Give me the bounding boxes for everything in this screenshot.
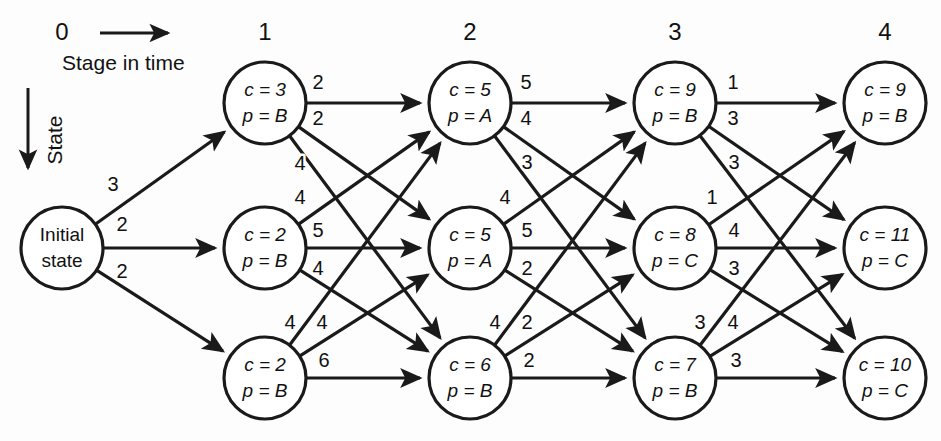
edge-s2r2-to-s3r1	[503, 132, 635, 225]
stage-label-1: 1	[258, 18, 271, 45]
node-label-line2-s3r3: p = B	[652, 380, 698, 401]
node-label-line1-s4r2: c = 11	[860, 224, 911, 245]
node-circle-s2r1	[429, 62, 511, 144]
node-s1r2[interactable]: c = 2p = B	[224, 207, 306, 289]
edge-weight-init-to-s1r1: 3	[107, 173, 118, 195]
node-label-line2-s4r3: p = C	[861, 380, 908, 401]
node-label-line1-s4r1: c = 9	[864, 79, 906, 100]
node-label-line1-s1r2: c = 2	[244, 224, 286, 245]
edge-weight-s1r2-to-s2r2: 5	[312, 219, 323, 241]
edge-weight-s3r2-to-s4r3: 3	[728, 257, 739, 279]
node-init[interactable]: Initialstate	[21, 207, 103, 289]
node-label-line1-s1r3: c = 2	[244, 354, 286, 375]
edge-weight-s1r1-to-s2r3: 4	[294, 152, 305, 174]
node-label-line2-s2r2: p = A	[447, 250, 492, 271]
trellis-diagram: Initialstatec = 3p = Bc = 2p = Bc = 2p =…	[0, 0, 941, 441]
node-label-line2-s1r1: p = B	[242, 105, 288, 126]
edge-weight-s2r3-to-s3r2: 2	[521, 311, 532, 333]
edge-weight-s3r3-to-s4r3: 3	[730, 349, 741, 371]
node-label-line1-s3r3: c = 7	[654, 354, 697, 375]
figure-canvas: Initialstatec = 3p = Bc = 2p = Bc = 2p =…	[0, 0, 941, 441]
node-label-line2-s3r1: p = B	[652, 105, 698, 126]
edge-s2r1-to-s3r3	[494, 135, 645, 338]
stage-labels-layer: 01234	[55, 18, 891, 45]
node-s1r3[interactable]: c = 2p = B	[224, 337, 306, 419]
node-circle-s2r3	[429, 337, 511, 419]
state-axis-caption: State	[43, 115, 66, 164]
edge-weight-s3r3-to-s4r2: 4	[727, 311, 738, 333]
node-circle-s1r3	[224, 337, 306, 419]
node-label-line1-s2r1: c = 5	[449, 79, 491, 100]
edge-weight-s1r2-to-s2r1: 4	[294, 186, 305, 208]
edge-weight-s2r2-to-s3r3: 2	[521, 257, 532, 279]
node-s2r1[interactable]: c = 5p = A	[429, 62, 511, 144]
node-label-line1-s3r1: c = 9	[654, 79, 696, 100]
edge-s3r1-to-s4r3	[699, 135, 854, 338]
node-circle-s4r2	[844, 207, 926, 289]
edge-weight-init-to-s1r3: 2	[116, 260, 127, 282]
edge-weight-s1r1-to-s2r2: 2	[312, 107, 323, 129]
node-circle-s1r1	[224, 62, 306, 144]
node-s4r2[interactable]: c = 11p = C	[844, 207, 926, 289]
stage-label-0: 0	[55, 18, 68, 45]
nodes-layer: Initialstatec = 3p = Bc = 2p = Bc = 2p =…	[21, 62, 926, 419]
edge-weight-s1r3-to-s2r2: 4	[316, 311, 327, 333]
edge-weight-s3r2-to-s4r1: 1	[706, 186, 717, 208]
edge-weight-s2r1-to-s3r1: 5	[520, 71, 531, 93]
edge-weight-s2r1-to-s3r2: 4	[520, 107, 531, 129]
edge-weight-s2r3-to-s3r1: 4	[489, 311, 500, 333]
edge-s1r2-to-s2r1	[298, 132, 430, 225]
node-label-line2-s3r2: p = C	[651, 250, 698, 271]
node-s3r1[interactable]: c = 9p = B	[634, 62, 716, 144]
node-label-line1-s4r3: c = 10	[859, 354, 912, 375]
edge-weight-s3r1-to-s4r2: 3	[727, 107, 738, 129]
node-label-line2-s4r1: p = B	[862, 105, 908, 126]
stage-label-4: 4	[878, 18, 891, 45]
node-label-line2-s2r3: p = B	[447, 380, 493, 401]
edge-weight-s3r2-to-s4r2: 4	[728, 219, 739, 241]
stage-label-2: 2	[463, 18, 476, 45]
edge-weight-s2r3-to-s3r3: 2	[523, 349, 534, 371]
edge-weight-s3r3-to-s4r1: 3	[694, 311, 705, 333]
node-circle-s3r3	[634, 337, 716, 419]
edge-s3r2-to-s4r1	[708, 131, 844, 225]
node-label-line1-init: Initial	[40, 224, 84, 245]
node-circle-init	[21, 207, 103, 289]
node-s2r3[interactable]: c = 6p = B	[429, 337, 511, 419]
node-label-line1-s3r2: c = 8	[654, 224, 696, 245]
node-label-line2-s1r2: p = B	[242, 250, 288, 271]
node-label-line2-s4r2: p = C	[861, 250, 908, 271]
stage-label-3: 3	[668, 18, 681, 45]
node-label-line1-s2r2: c = 5	[449, 224, 491, 245]
node-circle-s4r1	[844, 62, 926, 144]
node-s4r3[interactable]: c = 10p = C	[844, 337, 926, 419]
node-label-line1-s2r3: c = 6	[449, 354, 491, 375]
edge-weight-s2r2-to-s3r1: 4	[499, 186, 510, 208]
edge-weight-s2r1-to-s3r3: 3	[521, 151, 532, 173]
node-label-line2-s1r3: p = B	[242, 380, 288, 401]
node-s1r1[interactable]: c = 3p = B	[224, 62, 306, 144]
edge-weight-s2r2-to-s3r2: 5	[521, 219, 532, 241]
stage-axis-caption: Stage in time	[62, 51, 185, 74]
node-circle-s3r1	[634, 62, 716, 144]
node-label-line2-s2r1: p = A	[447, 105, 492, 126]
node-circle-s1r2	[224, 207, 306, 289]
edge-init-to-s1r3	[96, 270, 223, 351]
edge-weight-s1r3-to-s2r1: 4	[284, 311, 295, 333]
edge-weight-s3r1-to-s4r3: 3	[728, 151, 739, 173]
node-circle-s4r3	[844, 337, 926, 419]
edge-weight-s1r1-to-s2r1: 2	[312, 71, 323, 93]
node-s2r2[interactable]: c = 5p = A	[429, 207, 511, 289]
node-label-line2-init: state	[41, 250, 82, 271]
node-s3r2[interactable]: c = 8p = C	[634, 207, 716, 289]
edge-weight-s3r1-to-s4r1: 1	[727, 71, 738, 93]
node-label-line1-s1r1: c = 3	[244, 79, 286, 100]
node-circle-s2r2	[429, 207, 511, 289]
node-s4r1[interactable]: c = 9p = B	[844, 62, 926, 144]
node-s3r3[interactable]: c = 7p = B	[634, 337, 716, 419]
node-circle-s3r2	[634, 207, 716, 289]
axes-layer: Stage in time State	[28, 33, 185, 168]
edge-weight-init-to-s1r2: 2	[116, 213, 127, 235]
edge-weight-s1r2-to-s2r3: 4	[312, 257, 323, 279]
edge-weight-s1r3-to-s2r3: 6	[318, 349, 329, 371]
